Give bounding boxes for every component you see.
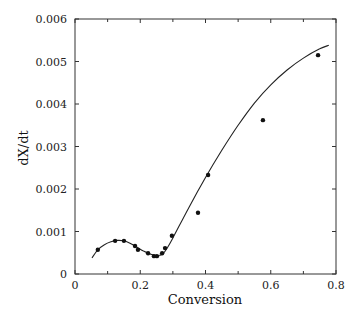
data-points [96,53,321,258]
data-point [133,244,137,248]
data-point [96,248,100,252]
y-tick-label: 0.006 [36,13,68,26]
fit-line [92,45,329,258]
y-tick-label: 0.005 [36,56,68,69]
data-point [170,234,174,238]
data-point [113,239,117,243]
data-point [160,251,164,255]
x-tick-label: 0.2 [132,279,150,292]
data-point [206,173,210,177]
y-tick-label: 0 [60,268,67,281]
data-point [196,211,200,215]
data-point [155,254,159,258]
y-tick-label: 0.003 [36,141,68,154]
chart-canvas: 00.20.40.60.8 00.0010.0020.0030.0040.005… [0,0,364,322]
x-axis-label: Conversion [168,292,243,307]
axes-box [75,19,336,274]
data-point [122,239,126,243]
data-point [136,248,140,252]
x-tick-label: 0.8 [327,279,345,292]
y-tick-label: 0.001 [36,226,68,239]
data-point [316,53,320,57]
data-point [146,251,150,255]
y-tick-label: 0.004 [36,98,68,111]
y-axis-ticks: 00.0010.0020.0030.0040.0050.006 [36,13,337,281]
y-tick-label: 0.002 [36,183,68,196]
x-tick-label: 0.4 [197,279,215,292]
y-axis-label: dX/dt [16,129,31,165]
x-axis-ticks: 00.20.40.60.8 [72,19,345,292]
data-point [163,246,167,250]
model-curve [92,45,329,258]
plot-frame [75,19,336,274]
x-tick-label: 0.6 [262,279,280,292]
data-point [261,118,265,122]
x-tick-label: 0 [72,279,79,292]
